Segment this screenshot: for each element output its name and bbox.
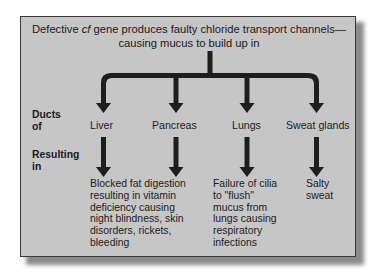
stem-line: [208, 51, 213, 75]
result-line: lungs causing: [213, 213, 277, 225]
result-liver-pancreas: Blocked fat digestion resulting in vitam…: [90, 178, 186, 249]
organ-pancreas: Pancreas: [152, 119, 197, 132]
result-line: resulting in vitamin: [90, 190, 186, 202]
ducts-label-line2: of: [32, 121, 61, 133]
arrow-down-icon: [240, 167, 255, 177]
arrow-shaft: [101, 137, 106, 169]
arrow-down-icon: [309, 167, 324, 177]
arrow-shaft: [174, 137, 179, 169]
arrow-down-icon: [240, 103, 255, 113]
arrow-down-icon: [169, 167, 184, 177]
result-lungs: Failure of cilia to "flush" mucus from l…: [213, 178, 277, 249]
result-line: Failure of cilia: [213, 178, 277, 190]
result-line: Blocked fat digestion: [90, 178, 186, 190]
result-line: deficiency causing: [90, 202, 186, 214]
resulting-label-line1: Resulting: [32, 149, 79, 161]
result-line: Salty: [306, 178, 333, 190]
result-line: sweat: [306, 190, 333, 202]
arrow-down-icon: [96, 103, 111, 113]
branch-pancreas-line: [174, 75, 179, 105]
connector-arrows: [21, 17, 357, 258]
organ-lungs: Lungs: [232, 119, 261, 132]
branch-lungs-line: [245, 75, 250, 105]
organ-liver: Liver: [90, 119, 113, 132]
result-line: infections: [213, 237, 277, 249]
result-line: bleeding: [90, 237, 186, 249]
result-line: night blindness, skin: [90, 213, 186, 225]
arrow-down-icon: [169, 103, 184, 113]
ducts-of-label: Ducts of: [32, 109, 61, 133]
resulting-in-label: Resulting in: [32, 149, 79, 173]
organ-sweat-glands: Sweat glands: [286, 119, 350, 132]
result-line: to "flush": [213, 190, 277, 202]
arrow-down-icon: [96, 167, 111, 177]
result-line: mucus from: [213, 202, 277, 214]
result-line: respiratory: [213, 225, 277, 237]
arrow-shaft: [245, 137, 250, 169]
ducts-label-line1: Ducts: [32, 109, 61, 121]
result-sweat-glands: Salty sweat: [306, 178, 333, 202]
branch-bar: [101, 73, 319, 104]
arrow-shaft: [314, 137, 319, 169]
resulting-label-line2: in: [32, 161, 79, 173]
diagram-panel: Defective cf gene produces faulty chlori…: [20, 16, 356, 257]
result-line: disorders, rickets,: [90, 225, 186, 237]
arrow-down-icon: [309, 103, 324, 113]
